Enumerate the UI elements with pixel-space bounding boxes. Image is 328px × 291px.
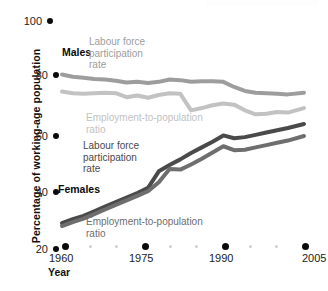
series-label-females-lfpr: Labour force participation rate	[83, 140, 139, 175]
series-group-label-females: Females	[58, 184, 100, 196]
series-label-males-lfpr: Labour force participation rate	[89, 36, 145, 71]
chart-container: Percentage of working-age population 100…	[0, 0, 328, 291]
series-label-females-epr: Employment-to-population ratio	[86, 216, 203, 239]
plot-area	[0, 0, 328, 291]
series-label-males-epr: Employment-to-population ratio	[86, 112, 203, 135]
series-group-label-males: Males	[62, 47, 91, 59]
